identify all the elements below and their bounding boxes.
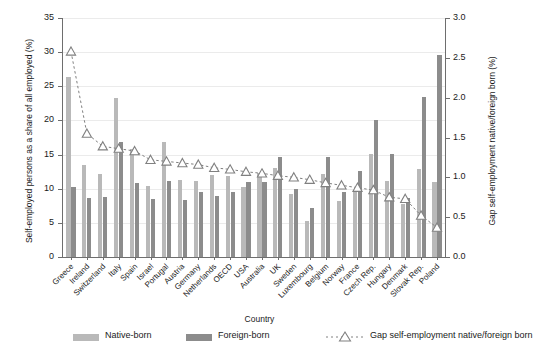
gap-marker bbox=[82, 129, 91, 137]
gap-line bbox=[71, 52, 437, 228]
gap-marker bbox=[146, 155, 155, 163]
x-tick bbox=[182, 257, 183, 260]
x-tick bbox=[135, 257, 136, 260]
gap-marker bbox=[66, 47, 75, 55]
x-tick bbox=[87, 257, 88, 260]
x-tick bbox=[230, 257, 231, 260]
x-tick bbox=[151, 257, 152, 260]
gap-marker bbox=[194, 160, 203, 168]
x-tick bbox=[119, 257, 120, 260]
x-tick bbox=[278, 257, 279, 260]
gap-marker bbox=[432, 223, 441, 231]
x-tick bbox=[342, 257, 343, 260]
gap-marker bbox=[321, 178, 330, 186]
gap-marker bbox=[401, 194, 410, 202]
x-tick bbox=[373, 257, 374, 260]
legend-label-native: Native-born bbox=[105, 330, 152, 340]
x-tick bbox=[103, 257, 104, 260]
legend-swatch-foreign bbox=[186, 334, 212, 341]
gap-marker bbox=[178, 158, 187, 166]
gap-marker bbox=[385, 193, 394, 201]
gap-marker bbox=[130, 146, 139, 154]
x-tick bbox=[310, 257, 311, 260]
x-tick bbox=[214, 257, 215, 260]
x-tick bbox=[198, 257, 199, 260]
x-tick bbox=[166, 257, 167, 260]
gap-marker bbox=[337, 181, 346, 189]
legend-swatch-native bbox=[73, 334, 99, 341]
x-tick bbox=[246, 257, 247, 260]
gap-marker bbox=[98, 142, 107, 150]
x-tick bbox=[71, 257, 72, 260]
legend-label-foreign: Foreign-born bbox=[218, 330, 270, 340]
x-tick bbox=[262, 257, 263, 260]
gap-marker bbox=[257, 169, 266, 177]
x-tick bbox=[405, 257, 406, 260]
x-tick bbox=[421, 257, 422, 260]
x-tick bbox=[357, 257, 358, 260]
legend: Native-born Foreign-born Gap self-employ… bbox=[0, 330, 519, 346]
x-tick bbox=[326, 257, 327, 260]
legend-label-gap: Gap self-employment native/foreign born bbox=[370, 330, 533, 340]
x-tick bbox=[437, 257, 438, 260]
legend-marker-gap bbox=[325, 330, 365, 344]
x-tick bbox=[294, 257, 295, 260]
x-tick bbox=[389, 257, 390, 260]
gap-marker bbox=[273, 171, 282, 179]
